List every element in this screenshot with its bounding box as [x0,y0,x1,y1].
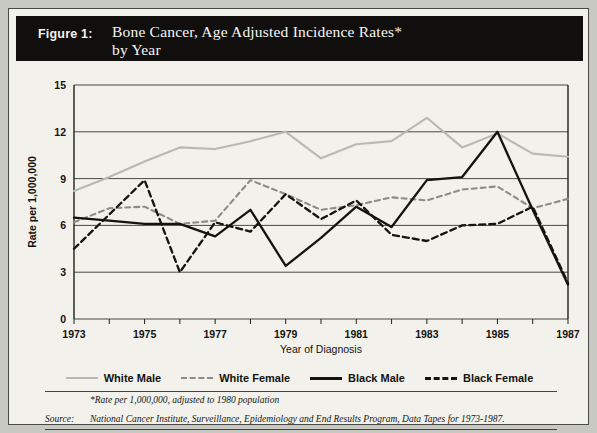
legend-item-white-male: White Male [66,372,161,384]
figure-title-line2: by Year [112,41,402,59]
svg-text:0: 0 [60,313,66,325]
figure-page: Figure 1: Bone Cancer, Age Adjusted Inci… [0,0,597,433]
svg-text:3: 3 [60,266,66,278]
y-axis-title: Rate per 1,000,000 [26,156,38,248]
svg-text:1987: 1987 [556,328,580,340]
legend-item-black-male: Black Male [310,372,405,384]
chart-series-layer [74,118,568,285]
legend-item-white-female: White Female [181,372,290,384]
legend-label-black-male: Black Male [348,372,405,384]
figure-header-bar: Figure 1: Bone Cancer, Age Adjusted Inci… [16,16,583,61]
svg-text:15: 15 [54,79,66,91]
legend-label-white-male: White Male [104,372,161,384]
line-chart: 03691215 1973197519771979198119831985198… [16,61,583,371]
legend-swatch-white-female [181,377,213,379]
chart-plot-area: 03691215 1973197519771979198119831985198… [16,61,583,371]
chart-x-ticks [74,319,568,324]
footnote-text: *Rate per 1,000,000, adjusted to 1980 po… [90,395,279,405]
svg-text:1981: 1981 [345,328,369,340]
figure-title-line1: Bone Cancer, Age Adjusted Incidence Rate… [112,23,402,40]
figure-title: Bone Cancer, Age Adjusted Incidence Rate… [112,23,402,58]
chart-gridlines [74,85,568,319]
x-axis-title: Year of Diagnosis [280,343,362,355]
source-text: National Cancer Institute, Surveillance,… [90,414,505,424]
legend-item-black-female: Black Female [425,372,533,384]
svg-text:1977: 1977 [203,328,227,340]
chart-x-tick-labels: 19731975197719791981198319851987 [62,328,580,340]
svg-text:1983: 1983 [415,328,439,340]
svg-text:6: 6 [60,219,66,231]
legend-swatch-black-female [425,377,457,380]
chart-legend: White Male White Female Black Male Black… [16,367,583,389]
figure-sheet: Figure 1: Bone Cancer, Age Adjusted Inci… [8,8,589,425]
legend-label-black-female: Black Female [463,372,533,384]
svg-text:1985: 1985 [486,328,510,340]
svg-text:1979: 1979 [274,328,298,340]
svg-text:1973: 1973 [62,328,86,340]
svg-text:9: 9 [60,173,66,185]
notes-top-divider [45,391,557,392]
figure-number-label: Figure 1: [38,27,93,41]
series-line-white-male [74,118,568,191]
legend-label-white-female: White Female [219,372,290,384]
svg-text:12: 12 [54,126,66,138]
series-line-black-female [74,180,568,283]
svg-text:1975: 1975 [133,328,157,340]
legend-swatch-white-male [66,377,98,379]
chart-y-tick-labels: 03691215 [54,79,66,325]
legend-swatch-black-male [310,377,342,380]
notes-bottom-divider [45,429,557,430]
source-label: Source: [45,414,74,424]
